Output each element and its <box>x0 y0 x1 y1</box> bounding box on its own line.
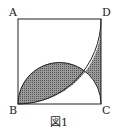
vertex-label-b: B <box>9 105 17 116</box>
vertex-label-d: D <box>102 7 111 18</box>
geometry-figure <box>0 0 116 131</box>
figure-caption: 図1 <box>50 117 68 128</box>
shaded-lens <box>18 62 86 104</box>
vertex-label-a: A <box>9 7 17 18</box>
vertex-label-c: C <box>102 105 110 116</box>
